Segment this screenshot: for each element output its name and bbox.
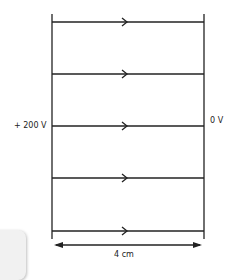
left-plate-voltage-label: + 200 V [14,121,47,130]
right-plate-voltage-label: 0 V [210,116,223,125]
field-lines [52,22,204,231]
dimension-arrowhead-right-icon [193,242,202,248]
separation-label: 4 cm [114,250,134,259]
dimension-arrowhead-left-icon [54,242,63,248]
